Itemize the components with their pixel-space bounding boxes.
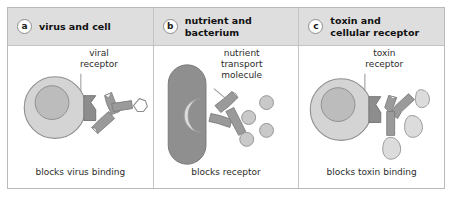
panel-virus-and-cell: a virus and cell bbox=[8, 8, 153, 188]
panel-header-b: b nutrient and bacterium bbox=[154, 8, 299, 46]
panel-title-c: toxin and cellular receptor bbox=[330, 15, 419, 38]
toxin-molecule-1 bbox=[416, 90, 430, 108]
panel-title-b: nutrient and bacterium bbox=[185, 15, 252, 38]
nutrient-molecule-3 bbox=[259, 123, 273, 137]
panel-nutrient-and-bacterium: b nutrient and bacterium bbox=[153, 8, 299, 188]
toxin-molecule-3 bbox=[383, 137, 401, 159]
host-cell-nucleus-icon bbox=[35, 86, 69, 120]
panel-letter-b: b bbox=[163, 19, 178, 34]
panel-letter-a: a bbox=[17, 19, 32, 34]
figure-container: a virus and cell bbox=[7, 7, 445, 189]
virus-particle-icon bbox=[133, 99, 147, 112]
nutrient-molecule-1 bbox=[259, 96, 273, 110]
caption-c: blocks toxin binding bbox=[299, 167, 444, 177]
target-cell-nucleus-icon bbox=[322, 88, 356, 122]
panel-toxin-and-cellular-receptor: c toxin and cellular receptor bbox=[298, 8, 444, 188]
panel-header-a: a virus and cell bbox=[8, 8, 153, 46]
antibody-icon bbox=[92, 93, 133, 134]
antibody-icon bbox=[209, 92, 246, 136]
panel-letter-c: c bbox=[308, 19, 323, 34]
toxin-molecule-2 bbox=[405, 116, 423, 138]
nutrient-molecule-4 bbox=[239, 132, 253, 146]
toxin-receptor-icon bbox=[369, 97, 381, 123]
viral-receptor-icon bbox=[84, 96, 96, 121]
panel-title-a: virus and cell bbox=[39, 21, 111, 33]
nutrient-molecule-2 bbox=[241, 111, 255, 125]
antibody-stem bbox=[387, 112, 395, 136]
caption-a: blocks virus binding bbox=[8, 167, 153, 177]
leader-line-nutrient-transport-molecule bbox=[214, 89, 226, 99]
panel-header-c: c toxin and cellular receptor bbox=[299, 8, 444, 46]
caption-b: blocks receptor bbox=[154, 167, 299, 177]
